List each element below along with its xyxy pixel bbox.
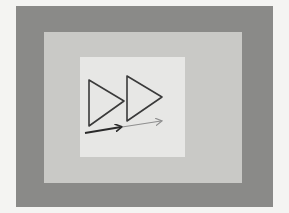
dark-arrow-icon — [85, 127, 121, 133]
triangle-left-icon — [89, 80, 124, 126]
diagram-drawing — [0, 0, 289, 213]
triangle-right-icon — [127, 76, 162, 121]
light-arrow-icon — [122, 121, 161, 127]
